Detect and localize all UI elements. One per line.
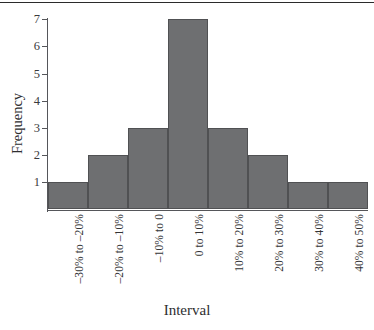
y-tick-mark bbox=[42, 19, 48, 20]
histogram-bar bbox=[88, 155, 128, 209]
x-tick-label: 20% to 30% bbox=[273, 214, 285, 272]
x-tick-label: 0 to 10% bbox=[193, 214, 205, 256]
x-tick-label: –30% to –20% bbox=[73, 214, 85, 284]
x-tick-label: –20% to –10% bbox=[113, 214, 125, 284]
x-tick-label: –10% to 0 bbox=[153, 214, 165, 262]
y-tick-label: 6 bbox=[18, 40, 40, 53]
x-tick-label: 30% to 40% bbox=[313, 214, 325, 272]
y-tick-mark bbox=[42, 155, 48, 156]
histogram-bar bbox=[208, 128, 248, 210]
x-tick-label: 40% to 50% bbox=[353, 214, 365, 272]
histogram-bar bbox=[288, 182, 328, 209]
x-tick-label: 10% to 20% bbox=[233, 214, 245, 272]
histogram-bar bbox=[128, 128, 168, 210]
y-tick-mark bbox=[42, 128, 48, 129]
plot-area: 1234567 –30% to –20%–20% to –10%–10% to … bbox=[0, 0, 374, 330]
histogram-bar bbox=[168, 19, 208, 209]
y-tick-label: 7 bbox=[18, 13, 40, 26]
histogram-bar bbox=[328, 182, 368, 209]
x-axis-line bbox=[47, 210, 368, 211]
histogram-figure: 1234567 –30% to –20%–20% to –10%–10% to … bbox=[0, 0, 374, 330]
y-tick-mark bbox=[42, 46, 48, 47]
y-tick-mark bbox=[42, 101, 48, 102]
y-tick-mark bbox=[42, 74, 48, 75]
histogram-bar bbox=[248, 155, 288, 209]
histogram-bar bbox=[48, 182, 88, 209]
y-tick-label: 1 bbox=[18, 176, 40, 189]
x-axis-title: Interval bbox=[0, 302, 374, 319]
y-axis-title: Frequency bbox=[9, 79, 26, 169]
